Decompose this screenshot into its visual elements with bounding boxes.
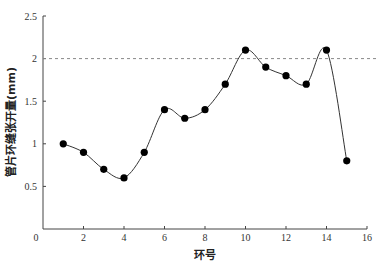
y-tick-label: 0.5 [25,181,38,192]
x-tick-label: 16 [362,232,372,243]
data-point [222,81,229,88]
data-point [100,166,107,173]
axes: 0.511.522.50246810121416 [25,11,373,244]
data-point [262,64,269,71]
y-tick-label: 2.5 [25,11,38,22]
x-tick-label: 10 [241,232,251,243]
x-tick-label: 12 [281,232,291,243]
x-tick-label: 8 [203,232,208,243]
x-tick-label: 4 [122,232,127,243]
data-point [282,72,289,79]
line-chart: 0.511.522.50246810121416 环号 管片环缝张开量(mm) [0,0,384,269]
y-tick-label: 1.5 [25,96,38,107]
data-point [303,81,310,88]
data-point [181,115,188,122]
series-group [60,46,351,181]
data-point [60,140,67,147]
data-point [201,106,208,113]
x-tick-label: 6 [162,232,167,243]
x-axis-title: 环号 [194,249,216,262]
data-point [161,106,168,113]
x-tick-label: 0 [34,232,39,243]
y-tick-label: 2 [32,53,37,64]
y-axis-title: 管片环缝张开量(mm) [4,67,18,177]
y-tick-label: 1 [32,138,37,149]
data-point [242,46,249,53]
data-point [80,149,87,156]
data-point [323,46,330,53]
data-point [343,157,350,164]
x-tick-label: 14 [322,232,332,243]
data-point [141,149,148,156]
x-tick-label: 2 [81,232,86,243]
data-point [120,174,127,181]
